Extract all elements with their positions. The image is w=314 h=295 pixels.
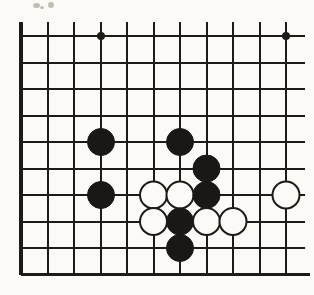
goban-canvas[interactable] — [0, 0, 314, 295]
go-board-figure — [0, 0, 314, 295]
white-stone[interactable] — [140, 208, 167, 235]
white-stone[interactable] — [167, 182, 194, 209]
black-stone[interactable] — [193, 155, 220, 182]
scan-smudge-top-left-c — [40, 6, 44, 9]
white-stone[interactable] — [220, 208, 247, 235]
hoshi-right-star-point-icon — [282, 32, 290, 40]
hoshi-left-star-point-icon — [97, 32, 105, 40]
scan-smudge-top-left-b — [48, 2, 54, 8]
black-stone[interactable] — [167, 129, 194, 156]
white-stone[interactable] — [193, 208, 220, 235]
black-stone[interactable] — [88, 129, 115, 156]
scan-smudge-top-left-a — [33, 3, 40, 8]
black-stone[interactable] — [167, 235, 194, 262]
black-stone[interactable] — [167, 208, 194, 235]
black-stone[interactable] — [193, 182, 220, 209]
white-stone[interactable] — [273, 182, 300, 209]
white-stone[interactable] — [140, 182, 167, 209]
black-stone[interactable] — [88, 182, 115, 209]
